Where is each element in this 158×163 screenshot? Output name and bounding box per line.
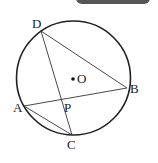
segment-ab — [24, 88, 127, 106]
label-o: O — [77, 71, 86, 86]
label-a: A — [13, 100, 23, 115]
label-p: P — [64, 100, 71, 115]
center-dot — [71, 77, 75, 81]
label-c: C — [67, 137, 76, 152]
label-b: B — [130, 81, 139, 96]
label-d: D — [32, 16, 41, 31]
circle-diagram: D B A C P O — [0, 0, 158, 163]
